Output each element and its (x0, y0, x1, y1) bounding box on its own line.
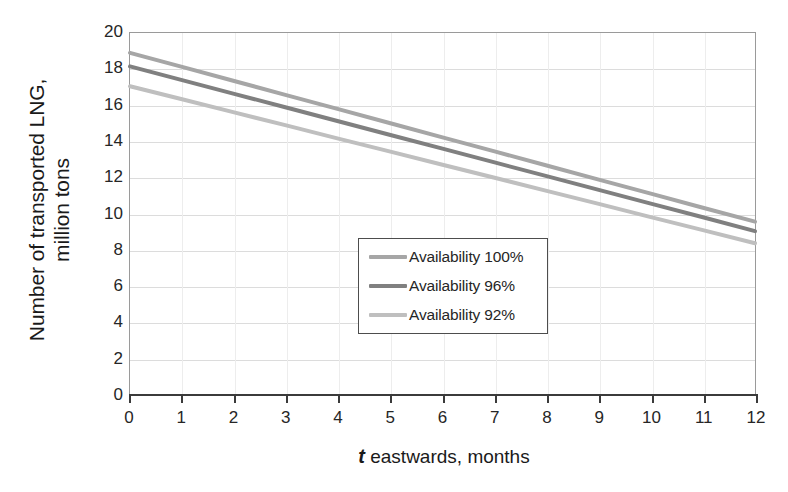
chart-figure: Number of transported LNG, million tons … (0, 0, 788, 492)
x-tick-mark (234, 394, 236, 403)
y-tick-label: 14 (83, 131, 123, 151)
series-line (130, 66, 755, 231)
x-tick-label: 8 (527, 408, 567, 428)
x-tick-label: 11 (684, 408, 724, 428)
x-tick-mark (756, 394, 758, 403)
y-tick-label: 8 (83, 240, 123, 260)
legend-item[interactable]: Availability 100% (359, 244, 547, 270)
x-axis-title-rest: eastwards, months (365, 446, 530, 467)
x-tick-label: 6 (423, 408, 463, 428)
y-tick-label: 2 (83, 349, 123, 369)
x-tick-mark (443, 394, 445, 403)
y-tick-label: 18 (83, 58, 123, 78)
x-tick-label: 4 (318, 408, 358, 428)
legend-item[interactable]: Availability 96% (359, 273, 547, 299)
x-tick-label: 7 (475, 408, 515, 428)
x-tick-mark (599, 394, 601, 403)
y-axis-title-line1: Number of transported LNG, (25, 79, 50, 341)
legend-label: Availability 100% (409, 248, 523, 266)
legend-label: Availability 96% (409, 277, 515, 295)
y-tick-label: 16 (83, 95, 123, 115)
x-tick-mark (547, 394, 549, 403)
x-tick-mark (286, 394, 288, 403)
x-tick-mark (338, 394, 340, 403)
chart-legend: Availability 100%Availability 96%Availab… (358, 238, 548, 334)
x-tick-label: 9 (579, 408, 619, 428)
x-tick-mark (495, 394, 497, 403)
x-tick-label: 10 (632, 408, 672, 428)
y-tick-label: 10 (83, 204, 123, 224)
x-axis-title: t eastwards, months (130, 445, 758, 468)
y-axis-title-line2: million tons (50, 158, 75, 262)
x-tick-label: 1 (161, 408, 201, 428)
x-tick-mark (390, 394, 392, 403)
legend-item[interactable]: Availability 92% (359, 302, 547, 328)
series-line (130, 53, 755, 222)
plot-area: Availability 100%Availability 96%Availab… (129, 32, 756, 395)
y-tick-label: 12 (83, 167, 123, 187)
x-tick-mark (129, 394, 131, 403)
legend-swatch-icon (369, 313, 407, 317)
y-tick-label: 6 (83, 276, 123, 296)
x-tick-label: 2 (214, 408, 254, 428)
x-tick-label: 5 (370, 408, 410, 428)
x-tick-label: 12 (736, 408, 776, 428)
x-tick-mark (181, 394, 183, 403)
x-tick-label: 0 (109, 408, 149, 428)
y-axis-title: Number of transported LNG, million tons (15, 15, 85, 405)
x-tick-mark (652, 394, 654, 403)
y-tick-label: 4 (83, 312, 123, 332)
y-axis-tick-labels: 02468101214161820 (78, 32, 123, 395)
series-line (130, 86, 755, 243)
series-lines (130, 33, 755, 394)
y-tick-label: 20 (83, 22, 123, 42)
x-tick-mark (704, 394, 706, 403)
legend-swatch-icon (369, 284, 407, 288)
x-tick-label: 3 (266, 408, 306, 428)
y-tick-label: 0 (83, 385, 123, 405)
legend-swatch-icon (369, 255, 407, 259)
x-axis-title-variable: t (358, 445, 365, 467)
legend-label: Availability 92% (409, 306, 515, 324)
